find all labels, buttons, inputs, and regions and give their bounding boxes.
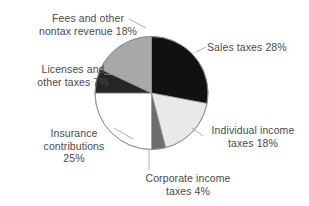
- slice-label-line: taxes 18%: [199, 137, 307, 150]
- slice-label-line: nontax revenue 18%: [22, 25, 154, 38]
- slice-label-line: taxes 4%: [136, 185, 240, 198]
- slice-label-line: Fees and other: [22, 12, 154, 25]
- slice-label-fees-and-other-nontax-revenue: Fees and other nontax revenue 18%: [22, 12, 154, 37]
- slice-label-line: Sales taxes 28%: [207, 41, 307, 54]
- slice-label-line: Individual income: [199, 124, 307, 137]
- slice-label-line: Licenses and: [14, 63, 132, 76]
- slice-label-corporate-income-taxes: Corporate income taxes 4%: [136, 172, 240, 197]
- slice-label-licenses-and-other-taxes: Licenses and other taxes 7%: [14, 63, 132, 88]
- slice-label-line: other taxes 7%: [14, 76, 132, 89]
- slice-label-line: contributions: [18, 140, 130, 153]
- leader-line-sales: [196, 47, 206, 52]
- pie-slice-sales-taxes[interactable]: [152, 37, 209, 104]
- slice-label-line: Corporate income: [136, 172, 240, 185]
- slice-label-line: 25%: [18, 152, 130, 165]
- slice-label-line: Insurance: [18, 127, 130, 140]
- slice-label-individual-income-taxes: Individual income taxes 18%: [199, 124, 307, 149]
- slice-label-sales-taxes: Sales taxes 28%: [207, 41, 307, 54]
- pie-chart-figure: Sales taxes 28% Individual income taxes …: [0, 0, 309, 206]
- slice-label-insurance-contributions: Insurance contributions 25%: [18, 127, 130, 165]
